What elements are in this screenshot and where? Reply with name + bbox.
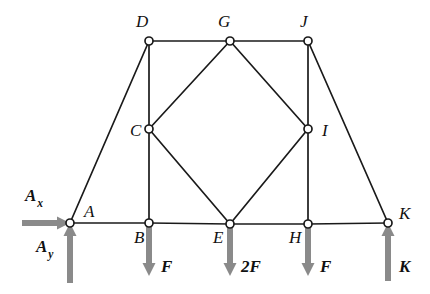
reaction-k-label: K [398,257,412,276]
joint-label-e: E [212,228,224,247]
truss-joint-h [304,220,312,228]
truss-joint-e [226,220,234,228]
truss-joint-g [226,37,234,45]
joint-label-j: J [300,12,309,31]
joint-label-h: H [288,228,303,247]
joint-labels-group: ABCDEGHIJK [83,12,412,247]
truss-diagram: ABCDEGHIJK AxAyF2FFK [0,0,430,294]
truss-member-be [149,223,230,224]
figure-canvas: ABCDEGHIJK AxAyF2FFK [0,0,430,294]
reaction-ax-label: Ax [24,186,43,209]
load-f-at-b-arrowhead [143,263,156,276]
joint-label-c: C [130,121,142,140]
truss-member-ei [230,129,308,224]
reaction-ax-subscript: x [36,197,43,209]
reaction-ay-label: Ay [35,237,54,261]
load-f-at-h-arrowhead [302,263,315,276]
truss-joint-k [384,219,392,227]
load-2f-at-e-label: 2F [240,257,262,276]
truss-member-gi [230,41,308,129]
joint-label-g: G [218,12,230,31]
truss-member-ce [149,129,230,224]
truss-joint-a [66,219,74,227]
joint-label-k: K [398,204,412,223]
truss-joint-i [304,125,312,133]
joint-label-a: A [83,202,95,221]
truss-member-hk [308,223,388,224]
joint-label-i: I [321,121,329,140]
load-f-at-b-label: F [160,257,173,276]
truss-joints-group [66,37,392,228]
joint-label-b: B [134,228,145,247]
reaction-ay-subscript: y [46,248,54,261]
truss-member-cg [149,41,230,129]
load-arrows-group [22,217,395,284]
joint-label-d: D [135,12,149,31]
truss-members-group [70,41,388,224]
truss-member-jk [308,41,388,223]
load-f-at-h-label: F [319,257,332,276]
truss-joint-d [145,37,153,45]
load-2f-at-e-arrowhead [224,263,237,276]
truss-joint-j [304,37,312,45]
truss-joint-c [145,125,153,133]
truss-joint-b [145,219,153,227]
